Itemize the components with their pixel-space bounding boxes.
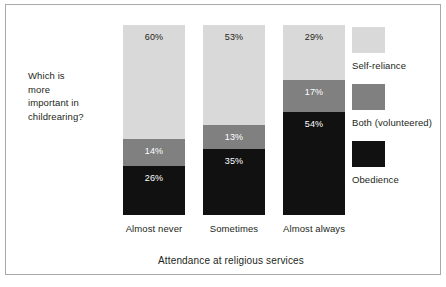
chart-figure: Which is more important in childrearing?…	[5, 4, 441, 275]
bar-segment-obedience: 54%	[283, 112, 345, 215]
legend-item-both: Both (volunteered)	[352, 84, 432, 128]
legend-label: Obedience	[352, 174, 399, 185]
question-line-3: important in	[28, 96, 124, 110]
legend-label: Self-reliance	[352, 60, 406, 71]
bar-segment-both: 14%	[123, 139, 185, 166]
legend-swatch-icon	[352, 27, 385, 53]
question-prompt: Which is more important in childrearing?	[28, 69, 124, 123]
bar-column-almost-never: 60% 14% 26%	[123, 25, 185, 215]
bar-segment-self-reliance: 29%	[283, 25, 345, 80]
bar-segment-self-reliance: 60%	[123, 25, 185, 139]
bar-segment-label: 26%	[123, 173, 185, 183]
bar-segment-label: 13%	[203, 132, 265, 142]
bar-segment-label: 14%	[123, 146, 185, 156]
legend-item-obedience: Obedience	[352, 141, 399, 185]
bar-column-almost-always: 29% 17% 54%	[283, 25, 345, 215]
question-line-2: more	[28, 83, 124, 97]
bar-column-sometimes: 53% 13% 35%	[203, 25, 265, 215]
x-tick-label-almost-always: Almost always	[259, 223, 369, 234]
bar-segment-label: 35%	[203, 156, 265, 166]
legend-item-self-reliance: Self-reliance	[352, 27, 406, 71]
plot-area: 60% 14% 26% 53% 13% 35% 29%	[118, 25, 336, 221]
question-line-1: Which is	[28, 69, 124, 83]
bar-segment-both: 17%	[283, 80, 345, 112]
legend-swatch-icon	[352, 141, 385, 167]
bar-segment-label: 29%	[283, 32, 345, 42]
bar-segment-label: 60%	[123, 32, 185, 42]
bar-segment-label: 54%	[283, 119, 345, 129]
bar-segment-obedience: 26%	[123, 166, 185, 215]
legend-swatch-icon	[352, 84, 385, 110]
bar-segment-self-reliance: 53%	[203, 25, 265, 125]
question-line-4: childrearing?	[28, 110, 124, 124]
bar-segment-obedience: 35%	[203, 149, 265, 215]
x-axis-title: Attendance at religious services	[66, 255, 396, 266]
bar-segment-both: 13%	[203, 125, 265, 149]
legend-label: Both (volunteered)	[352, 117, 432, 128]
bar-segment-label: 17%	[283, 87, 345, 97]
bar-segment-label: 53%	[203, 32, 265, 42]
